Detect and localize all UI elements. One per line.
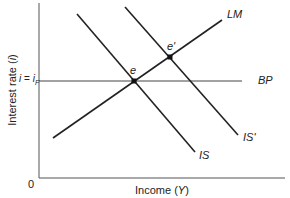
bp-level-eq: = bbox=[21, 73, 32, 84]
is-lm-bp-diagram: Interest rate (i) i = iF 0 Income (Y) LM… bbox=[0, 0, 290, 198]
point-e-label: e bbox=[130, 65, 136, 76]
y-axis-label-var: i bbox=[6, 58, 18, 60]
y-axis-label-text: Interest rate ( bbox=[6, 60, 18, 125]
equilibrium-point-e-prime bbox=[168, 55, 173, 60]
is-prime-curve bbox=[125, 7, 238, 135]
equilibrium-point-e bbox=[132, 79, 137, 84]
x-axis-label-text: Income ( bbox=[135, 184, 178, 196]
x-axis-label-close: ) bbox=[185, 184, 189, 196]
bp-label: BP bbox=[258, 75, 273, 86]
y-axis-label-close: ) bbox=[6, 54, 18, 58]
lm-curve bbox=[53, 20, 222, 138]
diagram-canvas bbox=[0, 0, 290, 198]
origin-label: 0 bbox=[28, 179, 34, 190]
is-label: IS bbox=[199, 150, 209, 161]
x-axis-label: Income (Y) bbox=[135, 185, 189, 196]
bp-level-sub: F bbox=[35, 79, 39, 86]
point-e-prime-label: e' bbox=[167, 41, 175, 52]
bp-level-label: i = iF bbox=[19, 74, 39, 86]
lm-label: LM bbox=[227, 9, 242, 20]
is-prime-label: IS' bbox=[243, 132, 256, 143]
y-axis-label: Interest rate (i) bbox=[6, 54, 18, 126]
